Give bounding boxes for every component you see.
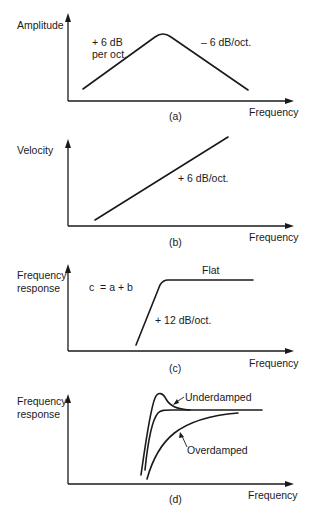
x-axis-label: Frequency [249, 357, 299, 369]
y-axis-label: Amplitude [17, 19, 64, 31]
overdamped-label: Overdamped [187, 444, 248, 456]
panel-b: Velocity + 6 dB/oct. Frequency (b) [17, 137, 299, 248]
y-axis-label-line2: response [17, 408, 60, 420]
panel-d: Frequency response Underdamped Overdampe… [17, 391, 298, 505]
slope-label-left-line1: + 6 dB [92, 36, 123, 48]
x-axis-arrow-icon [285, 223, 294, 229]
y-axis-label: Velocity [17, 144, 54, 156]
panel-c: Frequency response c = a + b Flat + 12 d… [17, 264, 299, 374]
equation-label: c = a + b [89, 281, 133, 293]
underdamped-curve [141, 394, 190, 475]
underdamped-label: Underdamped [185, 391, 252, 403]
flat-label: Flat [202, 264, 220, 276]
x-axis-arrow-icon [285, 481, 294, 487]
y-axis-label-line2: response [17, 282, 60, 294]
x-axis-label: Frequency [249, 231, 299, 243]
y-axis-arrow-icon [65, 139, 71, 148]
slope-label-left-line2: per oct. [92, 48, 127, 60]
panel-caption: (c) [169, 362, 181, 374]
panel-a: Amplitude + 6 dB per oct. – 6 dB/oct. Fr… [17, 13, 299, 122]
panel-caption: (d) [169, 493, 182, 505]
x-axis-label: Frequency [248, 489, 298, 501]
y-axis-label-line1: Frequency [17, 269, 67, 281]
figure: Amplitude + 6 dB per oct. – 6 dB/oct. Fr… [0, 0, 313, 522]
slope-label: + 6 dB/oct. [178, 172, 229, 184]
x-axis-arrow-icon [285, 98, 294, 104]
panel-caption: (b) [169, 236, 182, 248]
overdamped-pointer-icon [179, 432, 184, 438]
x-axis-label: Frequency [249, 106, 299, 118]
slope-label-right: – 6 dB/oct. [201, 36, 251, 48]
underdamped-pointer-icon [173, 399, 179, 405]
panel-caption: (a) [169, 110, 182, 122]
y-axis-arrow-icon [65, 13, 71, 22]
slope-label: + 12 dB/oct. [155, 314, 211, 326]
frequency-response-curve [136, 280, 253, 345]
y-axis-label-line1: Frequency [17, 395, 67, 407]
x-axis-arrow-icon [285, 348, 294, 354]
